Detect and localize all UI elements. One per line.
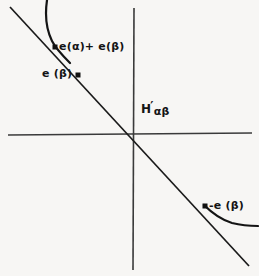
- diagram-canvas: [0, 0, 259, 276]
- point-marker-e-beta: [76, 73, 81, 78]
- label-e-beta: e (β): [42, 68, 72, 79]
- horizontal-axis: [8, 133, 252, 135]
- point-marker-neg-e-beta: [203, 204, 208, 209]
- math-diagram-figure: e(α)+ e(β) e (β) -e (β) H′αβ: [0, 0, 259, 276]
- hyperplane-subscript: αβ: [154, 105, 170, 118]
- upper-left-curve: [46, 0, 70, 63]
- vertical-axis: [133, 8, 134, 270]
- main-diagonal-line: [10, 7, 249, 266]
- label-e-alpha-plus-e-beta: e(α)+ e(β): [59, 41, 125, 52]
- point-marker-e-alpha-plus-e-beta: [53, 45, 58, 50]
- label-neg-e-beta: -e (β): [209, 200, 244, 211]
- label-hyperplane-h-prime-alpha-beta: H′αβ: [141, 103, 170, 115]
